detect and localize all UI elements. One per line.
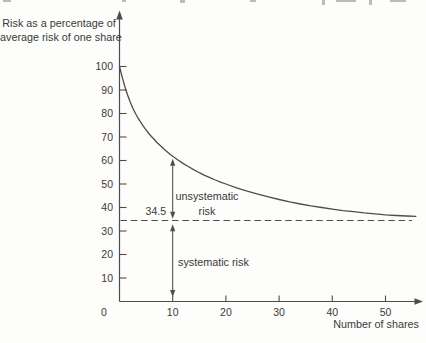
x-tick-label: 10 [158, 306, 188, 318]
y-tick-label: 40 [81, 201, 113, 213]
x-tick-label: 40 [317, 306, 347, 318]
systematic-risk-label: systematic risk [178, 256, 249, 270]
y-axis-title-line2: average risk of one share [0, 31, 118, 45]
y-tick-label: 70 [81, 131, 113, 143]
systematic-risk-arrow-arrowhead-icon [170, 290, 175, 297]
y-tick-label: 10 [81, 272, 113, 284]
diversification-risk-chart: Risk as a percentage of average risk of … [0, 0, 426, 343]
systematic-risk-arrow-arrowhead-icon [170, 224, 175, 231]
plot-area [0, 0, 426, 343]
y-tick-label: 60 [81, 154, 113, 166]
x-tick-label: 0 [89, 306, 119, 318]
x-tick-label: 50 [371, 306, 401, 318]
y-tick-label: 90 [81, 84, 113, 96]
unsystematic-risk-label: unsystematic risk [151, 189, 263, 218]
x-tick-label: 30 [264, 306, 294, 318]
y-axis-title: Risk as a percentage of average risk of … [0, 17, 118, 44]
x-axis-title: Number of shares [327, 318, 419, 332]
unsystematic-risk-label-line2: risk [151, 204, 263, 219]
y-tick-label: 20 [81, 248, 113, 260]
x-axis-arrowhead-icon [415, 298, 424, 305]
x-tick-label: 20 [211, 306, 241, 318]
y-tick-label: 100 [81, 60, 113, 72]
y-axis-title-line1: Risk as a percentage of [0, 17, 118, 31]
y-tick-label: 50 [81, 178, 113, 190]
unsystematic-risk-arrow-arrowhead-icon [170, 159, 175, 166]
y-tick-label: 80 [81, 107, 113, 119]
y-tick-label: 30 [81, 225, 113, 237]
unsystematic-risk-label-line1: unsystematic [151, 189, 263, 204]
